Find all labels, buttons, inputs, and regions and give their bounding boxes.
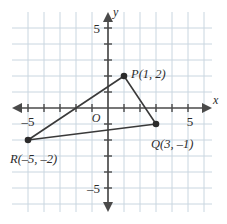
point-marker-r [25, 137, 32, 144]
point-marker-q [153, 121, 160, 128]
coordinate-plane-graph: y x –5 5 5 –5 O P(1, 2) Q(3, –1) R(–5, –… [0, 0, 227, 224]
x-tick-label-neg5: –5 [21, 114, 35, 129]
x-axis-label: x [212, 93, 219, 107]
point-label-r: R(–5, –2) [9, 152, 57, 166]
point-marker-p [121, 73, 128, 80]
origin-label: O [92, 111, 101, 125]
y-axis-label: y [112, 5, 119, 19]
point-label-q: Q(3, –1) [151, 137, 193, 151]
y-tick-label-5: 5 [94, 21, 101, 36]
x-tick-label-5: 5 [187, 114, 194, 129]
y-tick-label-neg5: –5 [86, 181, 100, 196]
grid-lines-vertical [28, 12, 204, 212]
point-label-p: P(1, 2) [130, 67, 166, 81]
grid-lines-horizontal [12, 28, 212, 204]
coordinate-plane-figure: y x –5 5 5 –5 O P(1, 2) Q(3, –1) R(–5, –… [0, 0, 227, 224]
